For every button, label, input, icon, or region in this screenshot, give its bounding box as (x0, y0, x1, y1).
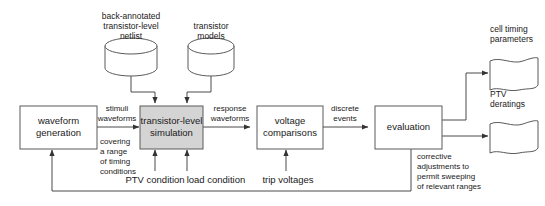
edge-label-line-3: of timing (100, 157, 130, 166)
edge-label-line-2: waveforms (97, 114, 137, 123)
edge-label-line-1: covering (100, 137, 130, 146)
process-box-voltage-comparisons[interactable]: voltage comparisons (257, 106, 323, 149)
output-label-line-2: deratings (490, 99, 525, 109)
box-label-line-1: transistor-level (141, 115, 203, 126)
edge-label-line-2: adjustments to (417, 162, 470, 171)
box-label-line-2: comparisons (263, 127, 317, 138)
output-doc-cell-timing-parameters: cell timing parameters (490, 24, 538, 91)
edge-label-line-1: corrective (417, 152, 452, 161)
store-label-line-3: netlist (120, 31, 143, 41)
store-label-line-2: models (197, 31, 224, 41)
output-label-line-2: parameters (490, 34, 533, 44)
edge-label-line-2: waveforms (210, 114, 250, 123)
output-label-line-1: cell timing (490, 24, 528, 34)
box-label-line-1: voltage (275, 115, 306, 126)
edge-label-stimuli-waveforms: stimuli waveforms (97, 104, 137, 123)
edge-label-line-4: of relevant ranges (417, 182, 481, 191)
edge-label-covering-range-timing: covering a range of timing conditions (100, 137, 136, 176)
process-box-transistor-level-simulation[interactable]: transistor-level simulation (140, 106, 203, 149)
store-label-line-1: back-annotated (102, 11, 161, 21)
store-label-line-2: transistor-level (103, 21, 158, 31)
data-store-transistor-models: transistor models (188, 21, 234, 76)
edge-evaluation-to-cell-timing (442, 73, 488, 120)
output-doc-ptv-deratings: PTV deratings (490, 89, 538, 154)
edge-label-response-waveforms: response waveforms (210, 104, 250, 123)
edge-label-line-2: events (333, 114, 357, 123)
edge-label-line-1: stimuli (106, 104, 129, 113)
box-label-line-1: evaluation (387, 121, 430, 132)
flow-canvas: back-annotated transistor-level netlist … (0, 0, 545, 206)
edge-label-line-1: discrete (331, 104, 360, 113)
transistor-level-characterization-diagram: back-annotated transistor-level netlist … (0, 0, 545, 206)
input-label-trip-voltages: trip voltages (262, 174, 313, 185)
edge-netlist-to-simulation (131, 75, 155, 103)
process-box-evaluation[interactable]: evaluation (375, 106, 442, 149)
edge-models-to-simulation (187, 75, 211, 103)
edge-label-line-1: response (214, 104, 247, 113)
process-box-waveform-generation[interactable]: waveform generation (20, 106, 97, 149)
box-label-line-1: waveform (37, 115, 79, 126)
box-label-line-2: simulation (150, 127, 193, 138)
data-store-back-annotated-netlist: back-annotated transistor-level netlist (102, 11, 161, 76)
edge-label-corrective-adjustments: corrective adjustments to permit sweepin… (417, 152, 481, 191)
edge-label-line-2: a range (100, 147, 128, 156)
store-label-line-1: transistor (194, 21, 229, 31)
input-label-load-condition: load condition (187, 174, 246, 185)
output-label-line-1: PTV (490, 89, 507, 99)
edge-label-discrete-events: discrete events (331, 104, 360, 123)
edge-label-line-3: permit sweeping (417, 172, 475, 181)
box-label-line-2: generation (36, 127, 81, 138)
input-label-ptv-condition: PTV condition (125, 174, 184, 185)
